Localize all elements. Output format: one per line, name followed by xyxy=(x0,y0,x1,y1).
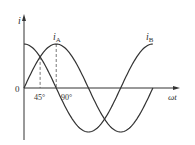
series-label-i-b-sub: B xyxy=(149,36,154,44)
waveform-diagram: i 0 45° 90° ωt iA iB xyxy=(0,0,195,145)
x-axis-arrow xyxy=(173,86,180,90)
series-label-i-b: iB xyxy=(146,31,154,44)
y-axis-label: i xyxy=(18,15,21,26)
series-label-i-a-sub: A xyxy=(56,36,61,44)
origin-label: 0 xyxy=(15,84,20,94)
series-label-i-a: iA xyxy=(53,31,61,44)
x-axis-label: ωt xyxy=(168,92,177,102)
y-axis-arrow xyxy=(22,14,26,21)
tick-label-90: 90° xyxy=(61,93,72,102)
tick-label-45: 45° xyxy=(34,93,45,102)
